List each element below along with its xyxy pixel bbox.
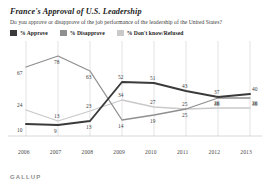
x-tick-label: 2008 (72, 146, 104, 158)
data-point-label: 13 (86, 124, 92, 130)
data-point-label: 25 (182, 112, 188, 118)
legend-swatch-dontknow (117, 30, 124, 36)
data-point-label: 78 (54, 59, 60, 65)
legend-label-disapprove: % Disapprove (70, 30, 105, 36)
x-tick-label: 2011 (167, 146, 199, 158)
data-point-label: 52 (118, 74, 124, 80)
legend-swatch-approve (10, 30, 17, 36)
legend-swatch-disapprove (60, 30, 67, 36)
data-point-label: 19 (150, 118, 156, 124)
data-point-label: 23 (86, 103, 92, 109)
data-point-label: 24 (17, 102, 23, 108)
x-tick-label: 2010 (135, 146, 167, 158)
data-point-label: 27 (150, 99, 156, 105)
data-point-label: 40 (252, 86, 258, 92)
data-point-label: 25 (182, 101, 188, 107)
page-title: France's Approval of U.S. Leadership (10, 7, 262, 17)
x-tick-label: 2013 (230, 146, 262, 158)
data-point-label: 34 (118, 92, 124, 98)
x-axis: 20062007200820092010201120122013 (8, 146, 262, 158)
x-tick-label: 2012 (199, 146, 231, 158)
legend-item-dontknow: % Don't know/Refused (117, 30, 184, 36)
x-tick-label: 2006 (8, 146, 40, 158)
data-point-label: 37 (214, 89, 220, 95)
x-tick-label: 2007 (40, 146, 72, 158)
data-point-label: 13 (54, 113, 60, 119)
data-point-label: 63 (86, 74, 92, 80)
x-tick-label: 2009 (103, 146, 135, 158)
chart-card: France's Approval of U.S. Leadership Do … (0, 0, 270, 186)
data-point-label: 26 (214, 100, 220, 106)
chart-legend: % Approve % Disapprove % Don't know/Refu… (10, 30, 262, 36)
data-point-label: 51 (150, 75, 156, 81)
data-point-label: 14 (118, 123, 124, 129)
data-point-label: 10 (17, 127, 23, 133)
chart-svg: 1091352514337406778631419253636241323342… (8, 41, 262, 146)
legend-item-disapprove: % Disapprove (60, 30, 105, 36)
data-point-label: 9 (54, 128, 57, 134)
data-point-label: 43 (182, 83, 188, 89)
legend-item-approve: % Approve (10, 30, 48, 36)
data-point-label: 67 (17, 70, 23, 76)
legend-label-dontknow: % Don't know/Refused (127, 30, 184, 36)
data-point-label: 26 (252, 100, 258, 106)
chart-subtitle: Do you approve or disapprove of the job … (10, 18, 262, 26)
line-chart-plot: 1091352514337406778631419253636241323342… (8, 41, 262, 146)
brand-footer: GALLUP (10, 174, 41, 180)
legend-label-approve: % Approve (20, 30, 48, 36)
